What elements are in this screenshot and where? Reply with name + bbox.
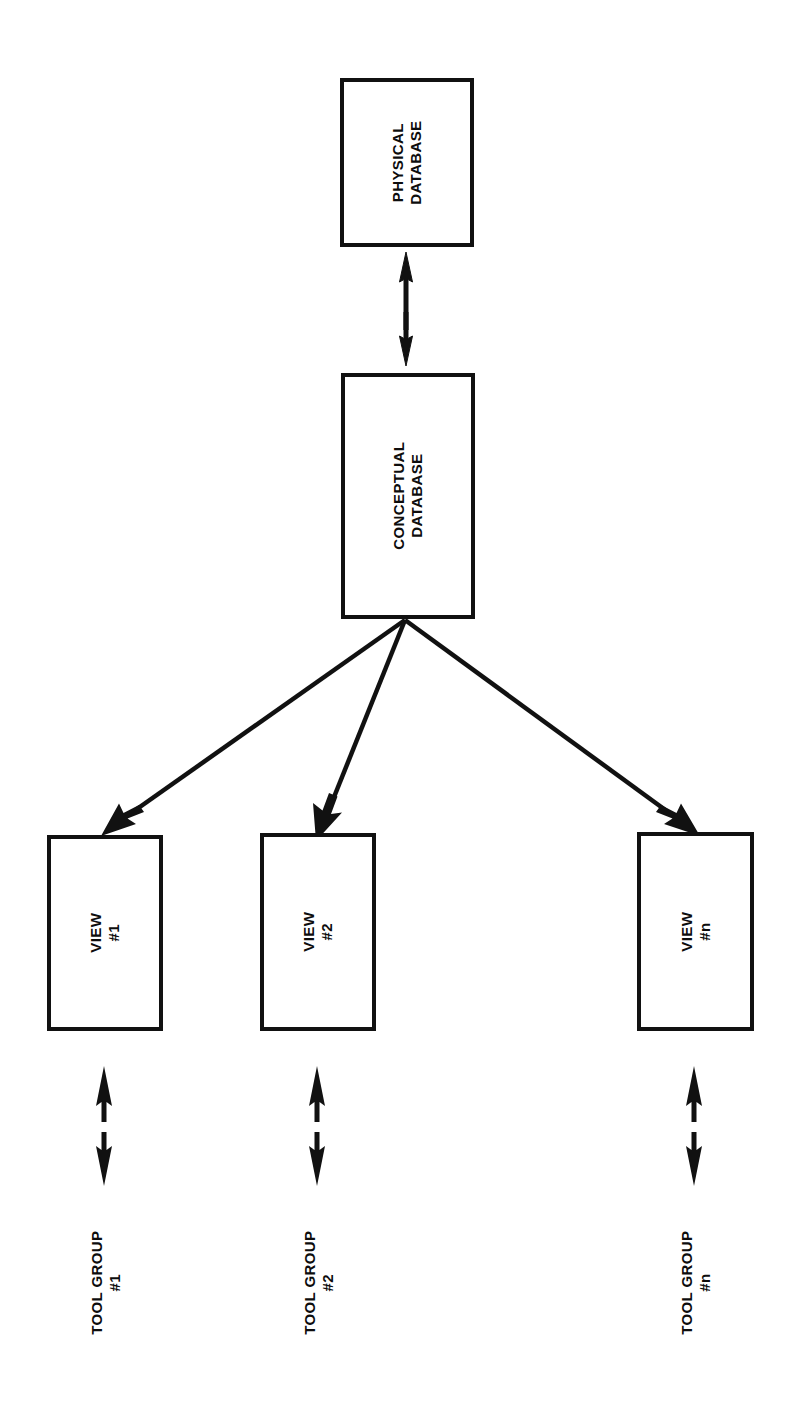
view-1-label-line1: VIEW xyxy=(87,913,105,953)
viewn-toolgroupn-arrow xyxy=(686,1066,702,1186)
tool-group-n-label-line2: #n xyxy=(696,1223,714,1343)
node-view-2[interactable]: VIEW #2 xyxy=(260,833,376,1031)
view-1-label-line2: #1 xyxy=(105,913,123,953)
tool-group-1-label: TOOL GROUP #1 xyxy=(88,1223,123,1343)
node-conceptual-database[interactable]: CONCEPTUAL DATABASE xyxy=(341,373,475,619)
view-n-label-line1: VIEW xyxy=(678,912,696,952)
tool-group-2-label: TOOL GROUP #2 xyxy=(301,1223,336,1343)
view-2-label-line1: VIEW xyxy=(300,912,318,952)
conceptual-viewn-arrow xyxy=(405,620,700,836)
tool-group-1-label-line2: #1 xyxy=(106,1223,124,1343)
node-physical-database[interactable]: PHYSICAL DATABASE xyxy=(340,78,474,247)
tool-group-2-label-line2: #2 xyxy=(319,1223,337,1343)
physical-conceptual-arrow xyxy=(400,252,413,366)
view1-toolgroup1-arrow xyxy=(96,1066,112,1186)
diagram-canvas: PHYSICAL DATABASE CONCEPTUAL DATABASE VI… xyxy=(0,0,787,1423)
tool-group-2-label-line1: TOOL GROUP xyxy=(301,1223,319,1343)
conceptual-database-label-line1: CONCEPTUAL xyxy=(390,442,408,550)
conceptual-view2-arrow xyxy=(313,620,405,841)
view-2-label: VIEW #2 xyxy=(300,912,335,952)
conceptual-view1-arrow xyxy=(101,620,405,836)
physical-database-label-line1: PHYSICAL xyxy=(389,120,407,204)
conceptual-database-label-line2: DATABASE xyxy=(408,442,426,550)
conceptual-database-label: CONCEPTUAL DATABASE xyxy=(390,442,425,550)
view-1-label: VIEW #1 xyxy=(87,913,122,953)
node-view-n[interactable]: VIEW #n xyxy=(637,832,754,1031)
node-view-1[interactable]: VIEW #1 xyxy=(47,835,163,1031)
view-n-label: VIEW #n xyxy=(678,912,713,952)
view2-toolgroup2-arrow xyxy=(309,1066,325,1186)
tool-group-n-label-line1: TOOL GROUP xyxy=(678,1223,696,1343)
view-2-label-line2: #2 xyxy=(318,912,336,952)
tool-group-1-label-line1: TOOL GROUP xyxy=(88,1223,106,1343)
view-n-label-line2: #n xyxy=(696,912,714,952)
physical-database-label-line2: DATABASE xyxy=(407,120,425,204)
physical-database-label: PHYSICAL DATABASE xyxy=(389,120,424,204)
tool-group-n-label: TOOL GROUP #n xyxy=(678,1223,713,1343)
